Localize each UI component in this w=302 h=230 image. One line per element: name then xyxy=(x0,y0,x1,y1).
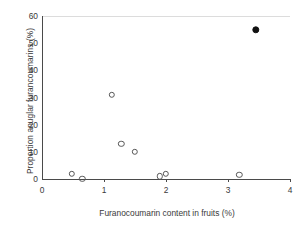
x-tick-label: 1 xyxy=(102,185,107,195)
x-tick-mark xyxy=(104,179,105,182)
plot-area: 0102030405060 01234 xyxy=(42,16,290,180)
y-tick-label: 20 xyxy=(29,120,38,130)
x-tick-mark xyxy=(166,179,167,182)
data-point xyxy=(132,149,138,155)
x-tick-mark xyxy=(290,179,291,182)
y-tick-label: 40 xyxy=(29,65,38,75)
x-tick-mark xyxy=(228,179,229,182)
x-tick-label: 2 xyxy=(164,185,169,195)
x-tick-label: 3 xyxy=(226,185,231,195)
data-point xyxy=(109,92,115,98)
scatter-plot-figure: Proportion anuglar furancoumarins (%) 01… xyxy=(0,0,302,230)
y-tick-label: 50 xyxy=(29,38,38,48)
data-point xyxy=(69,170,75,176)
y-tick-label: 0 xyxy=(33,174,38,184)
data-point xyxy=(79,176,85,182)
data-point xyxy=(252,26,259,33)
top-boundary-rule xyxy=(43,16,290,17)
data-point xyxy=(163,170,169,176)
x-axis-label: Furanocoumarin content in fruits (%) xyxy=(42,208,292,218)
y-tick-label: 10 xyxy=(29,147,38,157)
y-tick-label: 60 xyxy=(29,11,38,21)
x-tick-label: 0 xyxy=(40,185,45,195)
data-point xyxy=(118,140,124,146)
data-point xyxy=(236,172,242,178)
y-axis-line xyxy=(42,16,43,180)
y-tick-label: 30 xyxy=(29,93,38,103)
x-tick-label: 4 xyxy=(288,185,293,195)
